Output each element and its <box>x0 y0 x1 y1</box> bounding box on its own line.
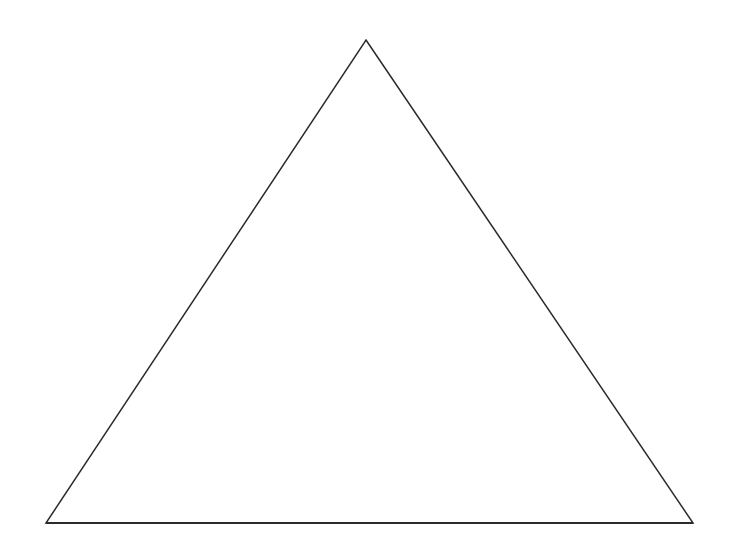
figure-canvas <box>0 0 734 557</box>
triangle-figure <box>0 0 734 557</box>
triangle-outline <box>46 40 693 523</box>
